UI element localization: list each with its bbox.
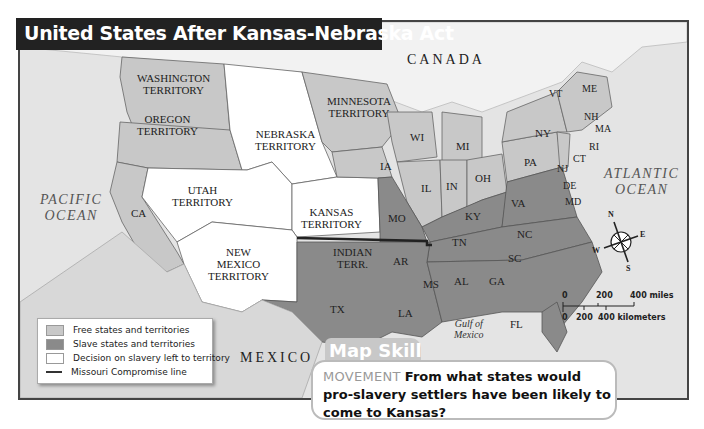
label-pa: PA [524,156,537,168]
label-washington-territory: WASHINGTON TERRITORY [137,72,210,96]
label-ca: CA [131,207,146,219]
label-ct: CT [573,153,586,165]
label-ny: NY [535,127,551,139]
legend-item-slave: Slave states and territories [46,338,195,350]
label-vt: VT [549,88,562,100]
compass-e: E [640,230,645,239]
label-in: IN [446,180,458,192]
label-il: IL [421,182,431,194]
label-ga: GA [489,275,505,287]
scale-miles-200: 200 [596,291,613,300]
label-la: LA [398,307,413,319]
legend-item-decision: Decision on slavery left to territory [46,352,230,364]
label-pacific-ocean: PACIFIC OCEAN [40,192,102,224]
label-nj: NJ [557,163,568,175]
map-title: United States After Kansas-Nebraska Act [24,22,454,44]
legend-item-line: Missouri Compromise line [46,366,187,378]
map-skill-keyword: MOVEMENT [323,369,401,384]
slave-swatch [46,339,64,350]
label-mo: MO [388,212,406,224]
label-indian-territory: INDIAN TERR. [333,246,372,270]
label-oh: OH [475,172,491,184]
label-de: DE [563,180,576,192]
scale-km-200: 200 [576,313,593,322]
label-mexico: MEXICO [240,350,313,366]
label-wi: WI [410,131,424,143]
label-ky: KY [465,210,481,222]
compass-w: W [592,246,600,255]
decision-swatch [46,353,64,364]
label-oregon-territory: OREGON TERRITORY [137,113,198,137]
free-swatch [46,325,64,336]
label-ar: AR [393,255,408,267]
scale-miles-0: 0 [562,291,568,300]
map-legend: Free states and territories Slave states… [37,318,213,384]
legend-item-free: Free states and territories [46,324,189,336]
label-new-mexico-territory: NEW MEXICO TERRITORY [208,246,269,282]
title-bar: United States After Kansas-Nebraska Act [16,18,382,50]
michigan [442,112,482,162]
label-fl: FL [510,318,523,330]
label-atlantic-ocean: ATLANTIC OCEAN [604,166,679,198]
label-mi: MI [456,140,469,152]
label-utah-territory: UTAH TERRITORY [172,184,233,208]
label-tx: TX [330,303,345,315]
label-minnesota-territory: MINNESOTA TERRITORY [327,95,391,119]
label-al: AL [454,275,469,287]
label-tn: TN [452,236,467,248]
label-ia: IA [380,160,392,172]
label-me: ME [582,83,597,95]
scale-km-400: 400 kilometers [598,313,666,322]
label-nh: NH [584,111,598,123]
label-canada: CANADA [407,52,485,68]
compass-n: N [608,210,614,219]
label-ma: MA [595,123,611,135]
map-skill-heading: Map Skill [329,340,422,361]
label-gulf-of-mexico: Gulf of Mexico [454,318,483,340]
scale-miles-400: 400 miles [630,291,674,300]
compass-icon [596,214,646,270]
map-skill-question: MOVEMENTFrom what states would pro-slave… [323,368,613,422]
compass-s: S [626,264,630,273]
label-va: VA [511,197,525,209]
label-md: MD [565,196,581,208]
label-nebraska-territory: NEBRASKA TERRITORY [255,128,316,152]
label-ri: RI [589,141,599,153]
label-sc: SC [508,252,521,264]
map-skill-box: MOVEMENTFrom what states would pro-slave… [311,360,617,420]
missouri-line-swatch [46,371,62,373]
compass-rose: N S E W [596,214,646,274]
scale-km-0: 0 [562,313,568,322]
scale-bar: 0 200 400 miles 0 200 400 kilometers [562,291,672,327]
label-nc: NC [517,228,532,240]
label-kansas-territory: KANSAS TERRITORY [301,206,362,230]
label-ms: MS [423,278,439,290]
